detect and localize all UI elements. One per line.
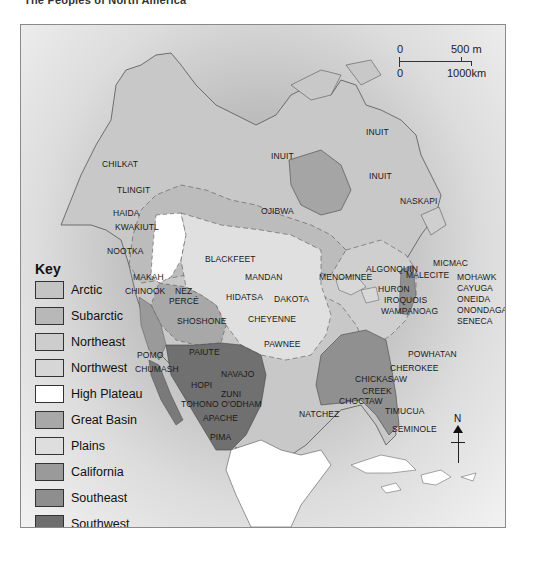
tribe-label: NATCHEZ xyxy=(299,410,339,419)
tribe-label: HIDATSA xyxy=(226,293,263,302)
tribe-label: CHEROKEE xyxy=(390,364,439,373)
tribe-label: CHICKASAW xyxy=(355,375,407,384)
legend-swatch xyxy=(35,489,64,507)
tribe-label: HAIDA xyxy=(113,209,139,218)
tribe-label: CHILKAT xyxy=(102,160,138,169)
tribe-label: CHOCTAW xyxy=(339,397,383,406)
north-arrow-icon: N xyxy=(449,413,469,473)
legend-swatch xyxy=(35,281,64,299)
tribe-label: DAKOTA xyxy=(274,295,309,304)
tribe-label: IROQUOIS xyxy=(384,296,427,305)
legend-swatch xyxy=(35,463,64,481)
tribe-label: PAWNEE xyxy=(264,340,301,349)
scale-top-left: 0 xyxy=(397,43,403,55)
legend-title: Key xyxy=(35,261,61,277)
tribe-label: MENOMINEE xyxy=(319,273,372,282)
legend-item-plains: Plains xyxy=(35,437,185,457)
tribe-label: ONEIDA xyxy=(457,295,490,304)
legend-swatch xyxy=(35,437,64,455)
legend-label: High Plateau xyxy=(71,387,143,401)
legend-swatch xyxy=(35,359,64,377)
scale-top-right: 500 m xyxy=(451,43,482,55)
legend-item-great-basin: Great Basin xyxy=(35,411,185,431)
tribe-label: TOHONO O'ODHAM xyxy=(181,400,262,409)
legend-item-southeast: Southeast xyxy=(35,489,185,509)
legend-item-subarctic: Subarctic xyxy=(35,307,185,327)
tribe-label: KWAKIUTL xyxy=(115,223,159,232)
tribe-label: MOHAWK xyxy=(457,273,496,282)
tribe-label: MANDAN xyxy=(245,273,282,282)
tribe-label: INUIT xyxy=(369,172,392,181)
tribe-label: ZUNI xyxy=(221,390,241,399)
tribe-label: HOPI xyxy=(191,381,212,390)
tribe-label: TIMUCUA xyxy=(385,407,424,416)
legend-swatch xyxy=(35,515,64,528)
tribe-label: NAVAJO xyxy=(221,370,254,379)
scale-bar: 0 500 m 0 1000km xyxy=(397,43,506,83)
scale-bottom-right: 1000km xyxy=(447,67,486,79)
tribe-label: APACHE xyxy=(203,414,238,423)
legend-label: Arctic xyxy=(71,283,102,297)
tribe-label: WAMPANOAG xyxy=(381,307,438,316)
legend-label: Southeast xyxy=(71,491,127,505)
tribe-label: NASKAPI xyxy=(400,197,438,206)
legend-item-arctic: Arctic xyxy=(35,281,185,301)
legend-label: California xyxy=(71,465,124,479)
legend-swatch xyxy=(35,307,64,325)
legend-label: Subarctic xyxy=(71,309,123,323)
tribe-label: CREEK xyxy=(362,387,392,396)
tribe-label: BLACKFEET xyxy=(205,255,256,264)
legend-label: Northeast xyxy=(71,335,125,349)
tribe-label: SENECA xyxy=(457,317,493,326)
map-title: The Peoples of North America xyxy=(24,0,186,6)
tribe-label: MALECITE xyxy=(406,271,449,280)
map-frame: 0 500 m 0 1000km N CHILKAT TLINGIT HAIDA… xyxy=(20,24,506,528)
tribe-label: NOOTKA xyxy=(107,247,144,256)
legend-swatch xyxy=(35,333,64,351)
legend-item-northeast: Northeast xyxy=(35,333,185,353)
legend-label: Plains xyxy=(71,439,105,453)
legend-item-high-plateau: High Plateau xyxy=(35,385,185,405)
legend-label: Great Basin xyxy=(71,413,137,427)
north-label: N xyxy=(454,413,461,424)
tribe-label: ONONDAGA xyxy=(457,306,506,315)
tribe-label: PAIUTE xyxy=(189,348,220,357)
legend-swatch xyxy=(35,385,64,403)
tribe-label: CHEYENNE xyxy=(248,315,296,324)
legend-item-southwest: Southwest xyxy=(35,515,185,528)
legend-item-california: California xyxy=(35,463,185,483)
scale-bottom-left: 0 xyxy=(397,67,403,79)
tribe-label: INUIT xyxy=(366,128,389,137)
legend-label: Northwest xyxy=(71,361,127,375)
tribe-label: CAYUGA xyxy=(457,284,493,293)
tribe-label: HURON xyxy=(378,285,410,294)
tribe-label: PIMA xyxy=(210,433,231,442)
tribe-label: OJIBWA xyxy=(261,207,294,216)
tribe-label: POWHATAN xyxy=(408,350,457,359)
tribe-label: TLINGIT xyxy=(117,186,150,195)
legend-label: Southwest xyxy=(71,517,129,528)
tribe-label: INUIT xyxy=(271,152,294,161)
legend-item-northwest: Northwest xyxy=(35,359,185,379)
tribe-label: MICMAC xyxy=(433,259,468,268)
tribe-label: SEMINOLE xyxy=(392,425,437,434)
legend-swatch xyxy=(35,411,64,429)
